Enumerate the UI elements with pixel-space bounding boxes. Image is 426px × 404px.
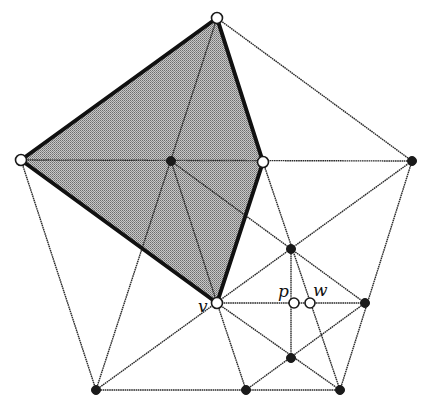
edge-v-BM: [217, 303, 246, 390]
node-center: [167, 157, 176, 166]
edge-v-BR: [217, 303, 340, 390]
label-p: p: [278, 281, 289, 301]
edge-RV-BR: [340, 161, 412, 390]
node-left: [16, 155, 27, 166]
node-l: [287, 354, 296, 363]
node-bottom-right: [336, 386, 345, 395]
node-top: [212, 13, 223, 24]
node-n: [287, 245, 296, 254]
node-mid-right: [258, 157, 269, 168]
label-v: v: [198, 296, 208, 316]
label-w: w: [313, 280, 328, 300]
node-bottom-mid: [242, 386, 251, 395]
graph-diagram: v p w: [0, 0, 426, 404]
edge-R-BM: [246, 303, 365, 390]
node-v: [212, 298, 223, 309]
node-p: [289, 298, 299, 308]
node-right: [408, 157, 417, 166]
node-bottom-left: [92, 386, 101, 395]
node-r: [361, 299, 370, 308]
